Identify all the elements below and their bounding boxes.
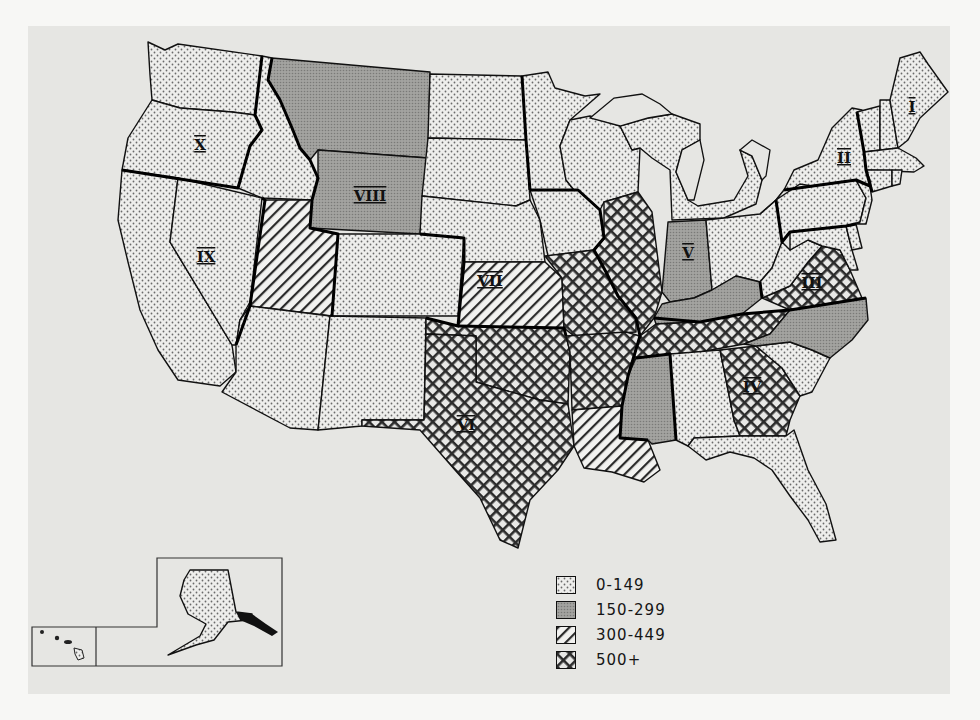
legend-item: 0-149 (556, 574, 716, 596)
region-label-VII: VII (476, 272, 503, 290)
state-NM (318, 316, 426, 430)
region-label-V: V (681, 244, 694, 262)
state-ME (890, 52, 948, 148)
legend-label: 0-149 (596, 576, 645, 594)
alaska-panhandle (236, 612, 278, 636)
region-label-VIII: VIII (353, 187, 387, 205)
legend-item: 500+ (556, 649, 716, 671)
state-HI (40, 630, 84, 660)
region-label-IV: IV (743, 378, 762, 396)
legend: 0-149 150-299 300-449 500+ (556, 574, 716, 674)
legend-swatch-diagonal (556, 626, 576, 644)
region-label-VI: VI (456, 416, 476, 434)
region-label-IX: IX (197, 248, 216, 266)
legend-label: 300-449 (596, 626, 666, 644)
state-RI (892, 170, 902, 186)
inset-frame (32, 558, 282, 666)
legend-item: 300-449 (556, 624, 716, 646)
state-FL (688, 430, 836, 542)
state-KS (458, 262, 564, 328)
region-label-X: X (194, 136, 206, 154)
legend-label: 500+ (596, 651, 641, 669)
legend-swatch-dots (556, 576, 576, 594)
inset-alaska-hawaii (32, 558, 282, 666)
legend-swatch-crosshatch (556, 651, 576, 669)
region-label-II: II (837, 149, 851, 167)
legend-swatch-fine-gray (556, 601, 576, 619)
state-MA (864, 148, 924, 172)
state-CO (332, 234, 464, 316)
state-ND (428, 74, 526, 140)
region-label-III: III (801, 274, 822, 292)
state-SD (422, 138, 530, 206)
us-regions-map: X IX VIII VII VI V IV III II I (0, 0, 980, 720)
legend-label: 150-299 (596, 601, 666, 619)
legend-item: 150-299 (556, 599, 716, 621)
region-label-I: I (908, 98, 915, 116)
